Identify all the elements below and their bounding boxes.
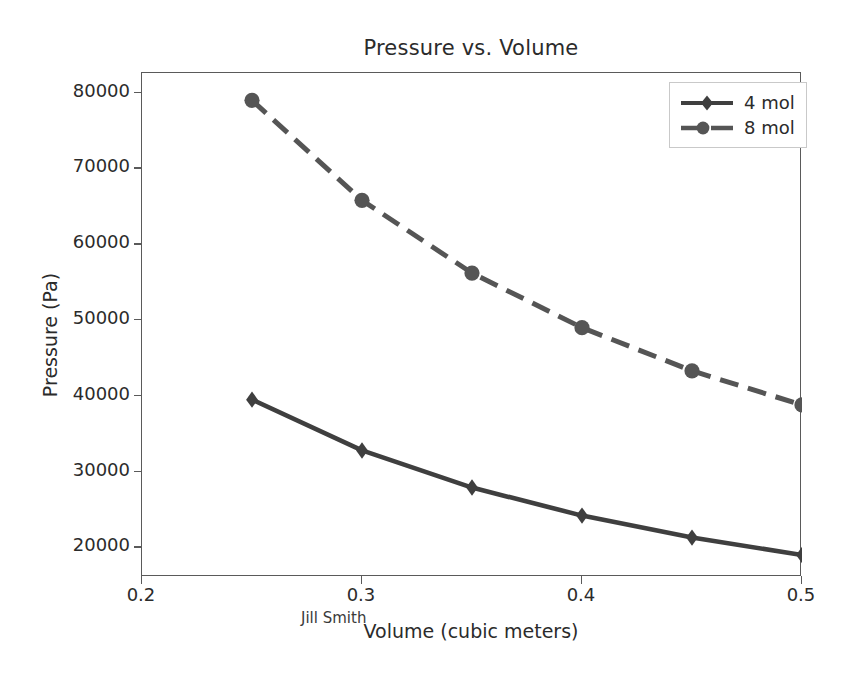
y-tick-label: 30000 — [40, 459, 130, 480]
y-tick-label: 70000 — [40, 155, 130, 176]
legend-item: 4 mol — [679, 90, 795, 115]
y-tick-mark — [134, 395, 142, 396]
series-marker-8-mol — [794, 397, 802, 412]
y-tick-label: 60000 — [40, 231, 130, 252]
y-tick-label: 40000 — [40, 383, 130, 404]
x-tick-label: 0.2 — [106, 584, 176, 605]
series-marker-8-mol — [244, 93, 259, 108]
x-tick-mark — [141, 576, 142, 584]
legend-swatch-8-mol — [679, 117, 735, 139]
y-axis-ticks: 20000300004000050000600007000080000 — [30, 0, 130, 674]
series-marker-8-mol — [464, 265, 479, 280]
series-marker-4-mol — [466, 479, 478, 495]
y-tick-label: 20000 — [40, 534, 130, 555]
x-tick-label: 0.3 — [326, 584, 396, 605]
series-marker-4-mol — [356, 442, 368, 458]
y-tick-label: 50000 — [40, 307, 130, 328]
y-tick-mark — [134, 92, 142, 93]
x-tick-mark — [361, 576, 362, 584]
series-marker-8-mol — [574, 320, 589, 335]
x-tick-mark — [801, 576, 802, 584]
x-tick-label: 0.5 — [766, 584, 836, 605]
series-line-4-mol — [252, 400, 802, 555]
series-marker-4-mol — [576, 507, 588, 523]
series-marker-8-mol — [354, 193, 369, 208]
y-tick-mark — [134, 167, 142, 168]
x-axis-label: Volume (cubic meters) — [141, 620, 801, 642]
series-marker-4-mol — [686, 529, 698, 545]
series-marker-4-mol — [796, 547, 802, 563]
chart-figure: Pressure vs. Volume Pressure (Pa) Volume… — [0, 0, 855, 674]
y-tick-mark — [134, 546, 142, 547]
legend-swatch-4-mol — [679, 92, 735, 114]
series-marker-8-mol — [684, 363, 699, 378]
legend-item: 8 mol — [679, 115, 795, 140]
y-tick-mark — [134, 471, 142, 472]
y-tick-mark — [134, 243, 142, 244]
chart-title: Pressure vs. Volume — [141, 36, 801, 60]
legend[interactable]: 4 mol 8 mol — [669, 82, 807, 148]
x-tick-label: 0.4 — [546, 584, 616, 605]
y-tick-label: 80000 — [40, 80, 130, 101]
y-tick-mark — [134, 319, 142, 320]
annotation-text: Jill Smith — [301, 609, 366, 627]
plot-series-svg — [142, 73, 802, 577]
series-marker-4-mol — [246, 391, 258, 407]
x-tick-mark — [581, 576, 582, 584]
legend-label-4-mol: 4 mol — [744, 92, 795, 113]
legend-label-8-mol: 8 mol — [744, 117, 795, 138]
